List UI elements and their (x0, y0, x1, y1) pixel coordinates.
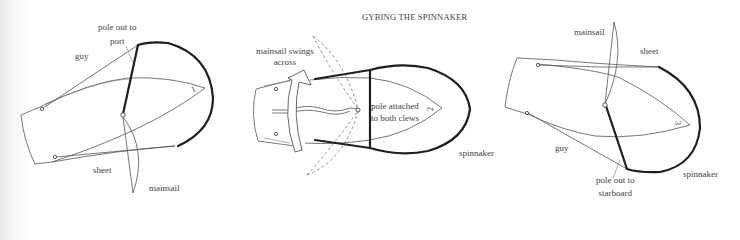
mast-3 (603, 103, 607, 107)
label-pole-out-port-line2: port (98, 36, 137, 47)
sheet-line-1 (56, 146, 175, 157)
label-mainsail-swings-line2: across (256, 57, 314, 68)
label-pole-out-starboard-line1: pole out to (596, 175, 635, 186)
label-mainsail-swings-line1: mainsail swings (256, 46, 314, 57)
mainsail-1 (123, 117, 139, 193)
diagram-3: 3 (505, 22, 700, 178)
spinnaker-3 (627, 67, 700, 172)
step-number-2: 2 (426, 107, 435, 111)
spinnaker-1 (138, 42, 213, 146)
figure-title: GYBING THE SPINNAKER (362, 12, 467, 22)
label-pole-attached: pole attached to both clews (371, 101, 419, 124)
fairlead-1b (53, 155, 56, 158)
sheet-lines-2 (272, 106, 358, 114)
label-pole-out-port: pole out to port (98, 22, 137, 47)
label-pole-attached-line2: to both clews (371, 113, 419, 124)
label-pole-attached-line1: pole attached (371, 101, 419, 112)
label-sheet-3: sheet (640, 46, 659, 57)
mast-1 (121, 113, 125, 117)
hull-1 (21, 78, 205, 164)
label-sheet-1: sheet (93, 165, 112, 176)
label-guy-1: guy (75, 51, 89, 62)
label-guy-3: guy (555, 143, 569, 154)
fairlead-3a (536, 63, 539, 66)
mainsail-3 (605, 22, 618, 104)
label-mainsail-3: mainsail (574, 27, 605, 38)
fairlead-1a (40, 107, 43, 110)
label-mainsail-swings: mainsail swings across (256, 46, 314, 68)
label-pole-out-starboard: pole out to starboard (596, 175, 635, 199)
step-number-3: 3 (673, 121, 682, 125)
label-pole-out-port-line1: pole out to (98, 22, 137, 33)
label-mainsail-1: mainsail (149, 183, 180, 194)
step-number-1: 1 (190, 85, 197, 95)
pole-3 (606, 106, 627, 169)
fairlead-2b (274, 132, 277, 135)
side-line-2a (264, 81, 290, 86)
fairlead-3b (525, 111, 528, 114)
label-pole-out-starboard-line2: starboard (596, 188, 635, 199)
label-spinnaker-2: spinnaker (459, 148, 494, 159)
hull-3-curve (528, 64, 690, 137)
label-spinnaker-3: spinnaker (683, 169, 718, 180)
diagram-1: 1 (21, 42, 213, 193)
fairlead-2a (274, 87, 277, 90)
mast-2 (356, 108, 360, 112)
hull-1-sheer (45, 79, 130, 104)
guy-line-1 (43, 45, 138, 108)
